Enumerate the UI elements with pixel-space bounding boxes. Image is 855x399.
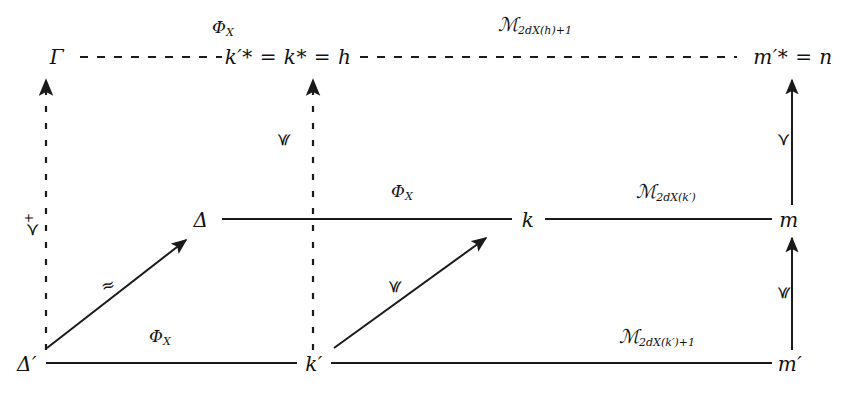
z-subscript-prefix: 2d [518, 24, 532, 37]
script-z-glyph: ℳ [619, 325, 639, 347]
edge-label-phi-bottom: ΦX [149, 326, 171, 348]
precedes-glyph: ≺ [773, 133, 793, 147]
z-subscript-prefix: 2d [656, 191, 670, 204]
node-k-star-equals-h: k′* = k* = h [225, 45, 352, 69]
node-m-star-equals-n: m′* = n [753, 45, 832, 69]
approximately-equal-glyph: ≈ [98, 273, 117, 296]
phi-subscript: X [226, 26, 234, 39]
phi-glyph: Φ [391, 181, 405, 201]
node-m-prime: m′ [778, 352, 803, 376]
z-subscript-rest: (k′)+1 [661, 336, 695, 349]
z-subscript-rest: (h)+1 [540, 24, 572, 37]
node-gamma: Γ [50, 45, 64, 69]
node-k: k [522, 208, 535, 232]
relation-label-diagonal-lower-left: ≈ [98, 273, 117, 296]
z-subscript-x: X [670, 191, 678, 204]
relation-label-right-lower: ≼ [773, 286, 793, 300]
precedes-or-equal-glyph: ≼ [384, 280, 404, 294]
phi-glyph: Φ [149, 326, 163, 346]
diagram-lines [0, 0, 855, 399]
edge-label-z-mid: ℳ2dX(k′) [636, 180, 696, 204]
relation-label-mid-vertical: ≼ [273, 133, 293, 147]
edge-label-phi-mid: ΦX [391, 181, 413, 203]
script-z-glyph: ℳ [498, 13, 518, 35]
phi-subscript: X [405, 190, 413, 203]
z-subscript-x: X [532, 24, 540, 37]
commutative-diagram: Γ k′* = k* = h m′* = n Δ k m Δ′ k′ m′ ΦX… [0, 0, 855, 399]
z-subscript-rest: (k′) [678, 191, 696, 204]
node-delta-prime: Δ′ [17, 352, 37, 376]
precedes-or-equal-glyph: ≼ [273, 133, 293, 147]
edge-label-z-top: ℳ2dX(h)+1 [498, 13, 572, 37]
edge-label-z-bottom: ℳ2dX(k′)+1 [619, 325, 695, 349]
node-k-prime: k′ [305, 352, 323, 376]
precedes-or-equal-glyph: ≼ [773, 286, 793, 300]
connector-diag-kprime-k [334, 238, 486, 348]
relation-label-right-upper: ≺ [773, 133, 793, 147]
edge-label-phi-top: ΦX [212, 17, 234, 39]
node-delta: Δ [194, 208, 209, 232]
plus-superscript: + [22, 213, 36, 223]
z-subscript-x: X [653, 336, 661, 349]
node-m: m [779, 208, 798, 232]
phi-glyph: Φ [212, 17, 226, 37]
relation-label-left-vertical: ≺+ [22, 213, 42, 237]
relation-label-diagonal-lower-mid: ≼ [384, 280, 404, 294]
z-subscript-prefix: 2d [639, 336, 653, 349]
phi-subscript: X [163, 335, 171, 348]
script-z-glyph: ℳ [636, 180, 656, 202]
precedes-glyph: ≺ [22, 223, 42, 237]
